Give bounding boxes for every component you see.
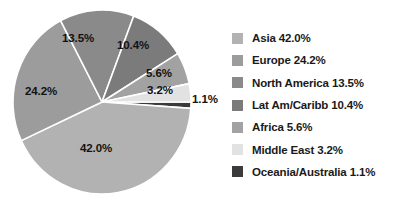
legend-item[interactable]: North America 13.5%: [232, 72, 408, 94]
slice-label-africa: 5.6%: [146, 67, 172, 79]
slice-label-middle-east: 3.2%: [147, 84, 173, 96]
legend-item-label: Oceania/Australia 1.1%: [252, 166, 375, 178]
legend-item-label: Lat Am/Caribb 10.4%: [252, 99, 363, 111]
legend-item[interactable]: Asia 42.0%: [232, 27, 408, 49]
legend-item[interactable]: Africa 5.6%: [232, 116, 408, 138]
legend-color-swatch: [232, 33, 243, 44]
legend-color-swatch: [232, 100, 243, 111]
legend-color-swatch: [232, 166, 243, 177]
legend-color-swatch: [232, 55, 243, 66]
chart-legend: Asia 42.0%Europe 24.2%North America 13.5…: [232, 27, 408, 183]
legend-item[interactable]: Lat Am/Caribb 10.4%: [232, 94, 408, 116]
legend-color-swatch: [232, 122, 243, 133]
pie-chart-figure: 13.5% 10.4% 5.6% 3.2% 1.1% 24.2% 42.0% A…: [0, 0, 408, 207]
slice-label-north-america: 13.5%: [62, 32, 94, 44]
pie-slice-group: [13, 10, 191, 194]
slice-label-europe: 24.2%: [25, 85, 57, 97]
slice-label-oceania: 1.1%: [192, 93, 218, 105]
legend-color-swatch: [232, 144, 243, 155]
legend-item-label: Africa 5.6%: [252, 121, 312, 133]
legend-item[interactable]: Europe 24.2%: [232, 49, 408, 71]
pie-chart-graphic: [12, 8, 192, 194]
legend-item-label: Asia 42.0%: [252, 32, 311, 44]
slice-label-lat-am: 10.4%: [117, 39, 149, 51]
pie-svg: [12, 8, 192, 194]
legend-item[interactable]: Oceania/Australia 1.1%: [232, 161, 408, 183]
legend-item-label: Middle East 3.2%: [252, 144, 343, 156]
legend-item[interactable]: Middle East 3.2%: [232, 138, 408, 160]
slice-label-asia: 42.0%: [80, 142, 112, 154]
legend-item-label: Europe 24.2%: [252, 54, 326, 66]
legend-item-label: North America 13.5%: [252, 77, 364, 89]
legend-color-swatch: [232, 77, 243, 88]
